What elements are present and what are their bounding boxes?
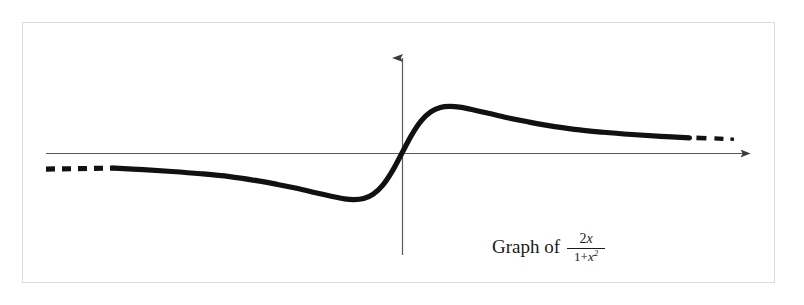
figure-container: Graph of 2x 1+x2 <box>0 0 804 305</box>
curve-dashed-left-tail <box>46 168 115 169</box>
curve-dashed-right-tail-segment-2 <box>714 138 723 139</box>
curve-dashed-right-tail-segment-3 <box>730 139 734 140</box>
plot-canvas <box>0 0 804 305</box>
